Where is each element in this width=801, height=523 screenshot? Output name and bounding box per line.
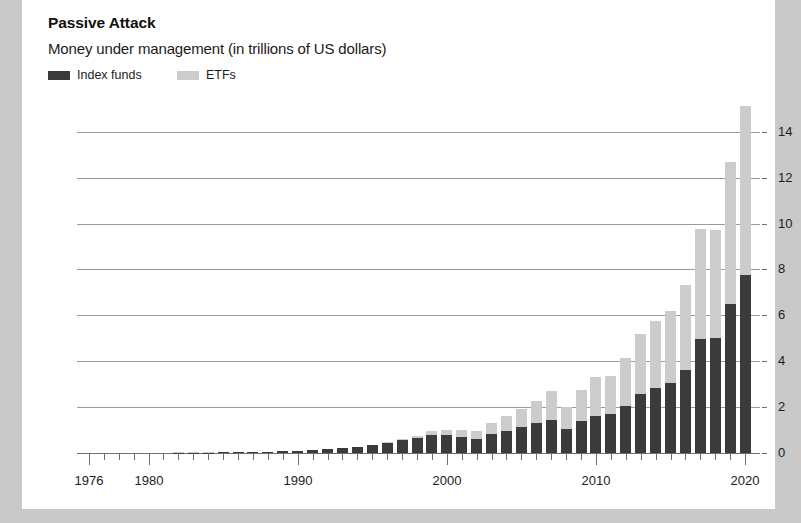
x-axis-tick xyxy=(89,453,90,465)
bar-segment-index-funds xyxy=(456,437,467,453)
chart-subtitle: Money under management (in trillions of … xyxy=(48,40,386,57)
x-axis-tick xyxy=(581,453,582,460)
bar-segment-etfs xyxy=(680,285,691,370)
bar-column xyxy=(576,390,587,453)
bar-column xyxy=(695,229,706,453)
bar-segment-index-funds xyxy=(635,394,646,453)
bar-segment-index-funds xyxy=(576,421,587,453)
bar-column xyxy=(412,436,423,453)
bar-segment-etfs xyxy=(546,391,557,420)
x-axis-tick xyxy=(387,453,388,460)
bar-segment-index-funds xyxy=(471,439,482,453)
legend-swatch-icon xyxy=(177,71,199,80)
x-axis-tick xyxy=(283,453,284,460)
x-axis-tick xyxy=(656,453,657,460)
bar-column xyxy=(725,162,736,453)
chart-card: Passive Attack Money under management (i… xyxy=(22,0,775,509)
bar-segment-etfs xyxy=(576,390,587,421)
y-axis-label: 6 xyxy=(778,307,785,322)
x-axis-label: 2020 xyxy=(731,473,760,488)
bar-column xyxy=(650,321,661,453)
page-title: Passive Attack xyxy=(48,14,155,32)
bar-segment-etfs xyxy=(605,376,616,414)
bar-segment-index-funds xyxy=(397,440,408,453)
legend-item-1: ETFs xyxy=(177,67,236,83)
bar-segment-index-funds xyxy=(441,435,452,453)
bar-column xyxy=(740,106,751,453)
bar-column xyxy=(367,445,378,453)
x-axis-tick xyxy=(223,453,224,460)
bar-segment-index-funds xyxy=(501,431,512,453)
x-axis-tick xyxy=(715,453,716,460)
x-axis-tick xyxy=(268,453,269,460)
gridline xyxy=(77,132,760,133)
bar-column xyxy=(710,230,721,453)
x-axis-label: 2000 xyxy=(433,473,462,488)
y-axis-label: 10 xyxy=(778,216,792,231)
x-axis-tick xyxy=(432,453,433,460)
bar-column xyxy=(471,431,482,453)
bar-segment-index-funds xyxy=(382,443,393,453)
x-axis-tick xyxy=(671,453,672,460)
x-axis-tick xyxy=(492,453,493,460)
bar-segment-index-funds xyxy=(740,275,751,453)
x-axis-tick xyxy=(149,453,150,465)
bar-segment-index-funds xyxy=(516,427,527,453)
legend-swatch-icon xyxy=(48,71,70,80)
bar-segment-index-funds xyxy=(561,429,572,453)
x-axis-tick xyxy=(462,453,463,460)
bar-column xyxy=(605,376,616,453)
y-axis-tick xyxy=(762,361,767,362)
x-axis-tick xyxy=(506,453,507,460)
x-axis-tick xyxy=(328,453,329,460)
x-axis-tick xyxy=(357,453,358,460)
bar-segment-etfs xyxy=(740,106,751,275)
x-axis-tick xyxy=(611,453,612,460)
bar-column xyxy=(561,407,572,453)
bar-column xyxy=(456,430,467,453)
bar-segment-etfs xyxy=(516,409,527,427)
x-axis-label: 1980 xyxy=(135,473,164,488)
bar-column xyxy=(382,442,393,453)
gridline xyxy=(77,178,760,179)
x-axis-tick xyxy=(208,453,209,460)
legend-label: ETFs xyxy=(206,68,236,82)
bar-segment-etfs xyxy=(725,162,736,304)
bar-segment-index-funds xyxy=(650,388,661,453)
x-axis-label: 1990 xyxy=(284,473,313,488)
bar-segment-index-funds xyxy=(605,414,616,453)
y-axis-label: 0 xyxy=(778,445,785,460)
bar-segment-index-funds xyxy=(531,423,542,453)
x-axis-line xyxy=(77,453,760,454)
x-axis-tick xyxy=(238,453,239,460)
bar-column xyxy=(665,311,676,453)
x-axis-tick xyxy=(298,453,299,465)
bar-segment-etfs xyxy=(486,423,497,434)
x-axis-tick xyxy=(119,453,120,460)
x-axis-tick xyxy=(402,453,403,460)
bar-segment-index-funds xyxy=(426,435,437,453)
bar-segment-etfs xyxy=(665,311,676,383)
x-axis-tick xyxy=(313,453,314,460)
bar-segment-index-funds xyxy=(665,383,676,453)
chart-plot-area: 02468101214197619801990200020102020 xyxy=(77,95,760,453)
bar-segment-index-funds xyxy=(620,406,631,453)
bar-segment-index-funds xyxy=(725,304,736,453)
bar-segment-etfs xyxy=(561,407,572,429)
bar-segment-etfs xyxy=(590,377,601,416)
bar-segment-index-funds xyxy=(412,438,423,453)
bar-column xyxy=(486,423,497,453)
bar-segment-index-funds xyxy=(367,445,378,453)
bar-segment-index-funds xyxy=(710,338,721,453)
y-axis-tick xyxy=(762,407,767,408)
bar-segment-etfs xyxy=(650,321,661,388)
y-axis-label: 2 xyxy=(778,399,785,414)
x-axis-tick xyxy=(551,453,552,460)
bar-segment-etfs xyxy=(471,431,482,439)
x-axis-tick xyxy=(477,453,478,460)
bar-segment-etfs xyxy=(620,358,631,406)
bar-column xyxy=(516,409,527,453)
bar-segment-index-funds xyxy=(486,434,497,453)
x-axis-tick xyxy=(536,453,537,460)
x-axis-tick xyxy=(566,453,567,460)
